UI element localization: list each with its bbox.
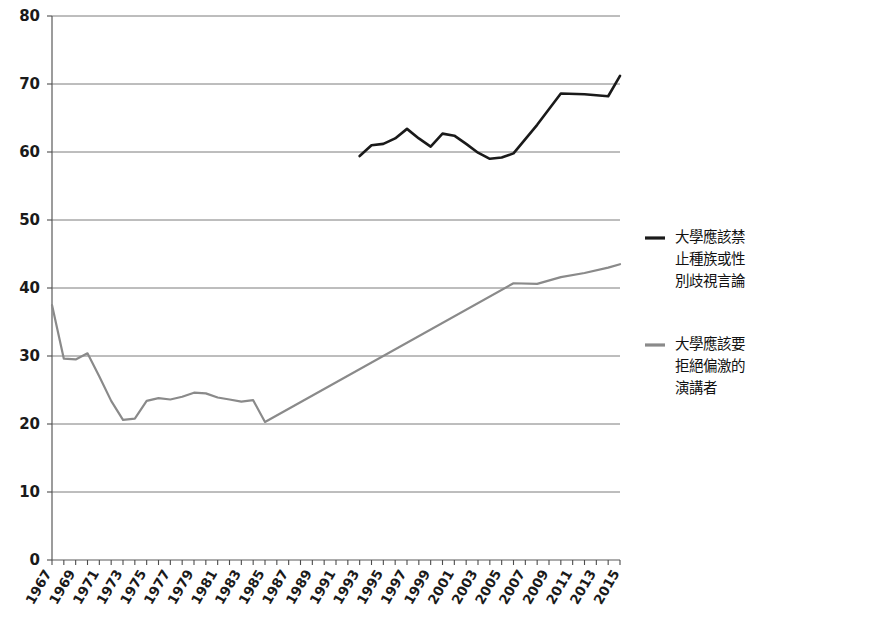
- line-chart: 01020304050607080 1967196919711973197519…: [0, 0, 878, 632]
- y-tick-label-50: 50: [19, 211, 40, 229]
- legend-label-2-line-2: 拒絕偏激的: [675, 358, 745, 374]
- legend-label-2-line-1: 大學應該要: [675, 335, 745, 352]
- y-tick-label-60: 60: [19, 143, 40, 161]
- legend-label-2-line-3: 演講者: [675, 380, 717, 396]
- y-tick-label-10: 10: [19, 483, 40, 501]
- y-tick-label-80: 80: [19, 7, 40, 25]
- y-tick-label-0: 0: [30, 551, 40, 569]
- legend-label-1-line-1: 大學應該禁: [675, 228, 745, 245]
- y-tick-label-20: 20: [19, 415, 40, 433]
- legend-label-1-line-3: 別歧視言論: [675, 273, 746, 289]
- chart-background: [0, 0, 878, 632]
- y-tick-label-40: 40: [19, 279, 40, 297]
- legend-label-1-line-2: 止種族或性: [675, 251, 745, 267]
- y-tick-label-70: 70: [19, 75, 40, 93]
- y-tick-label-30: 30: [19, 347, 40, 365]
- y-axis-tick-labels: 01020304050607080: [19, 7, 40, 569]
